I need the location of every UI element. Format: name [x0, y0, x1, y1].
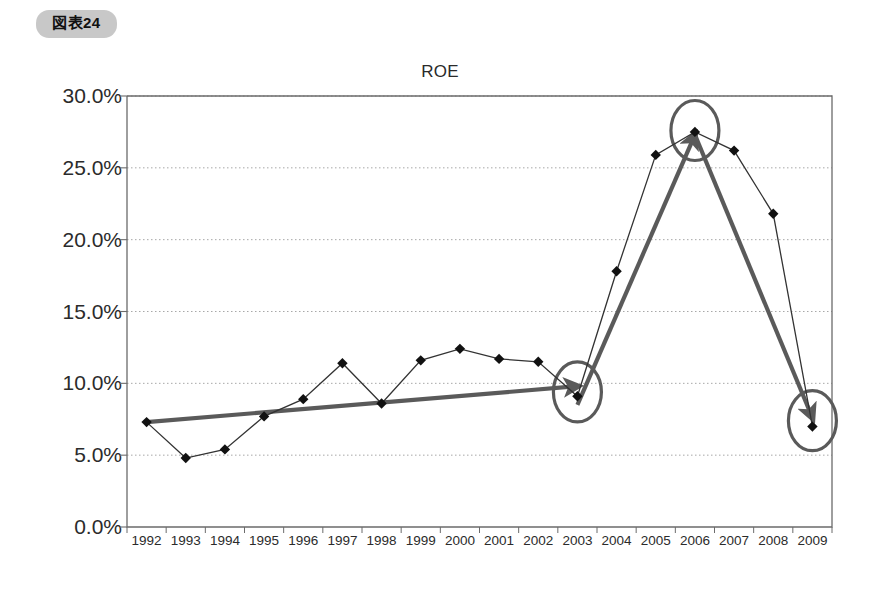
data-point-marker: [494, 354, 504, 364]
chart-gridlines: [120, 96, 832, 533]
data-point-marker: [690, 127, 700, 137]
chart-figure: 図表24 ROE 0.0%5.0%10.0%15.0%20.0%25.0%30.…: [0, 0, 880, 589]
data-point-marker: [611, 266, 621, 276]
trend-arrow-2003-2006: [577, 135, 695, 405]
trend-arrow-1992-2003: [147, 386, 578, 422]
data-point-marker: [651, 150, 661, 160]
highlight-circle-2009: [788, 391, 836, 451]
chart-plot-area: [0, 0, 880, 589]
trend-arrow-2006-2009: [695, 135, 813, 418]
data-point-marker: [768, 209, 778, 219]
data-point-marker: [807, 421, 817, 431]
data-point-marker: [455, 344, 465, 354]
data-point-marker: [729, 145, 739, 155]
